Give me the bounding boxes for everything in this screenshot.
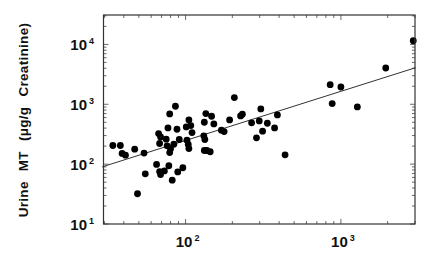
data-point [117,142,124,149]
data-points [109,37,416,197]
tick-label: 103 [331,233,355,250]
data-point [271,125,278,132]
data-point [169,177,176,184]
data-point [163,136,170,143]
data-point [156,140,163,147]
data-point [122,152,129,159]
data-point [282,151,289,158]
data-point [248,119,255,126]
data-point [172,103,179,110]
data-point [201,136,208,143]
data-point [142,170,149,177]
tick-label: 102 [176,233,200,250]
data-point [174,126,181,133]
data-point [207,148,214,155]
data-point [274,112,281,119]
data-point [231,94,238,101]
data-point [239,111,246,118]
data-point [253,134,260,141]
data-point [410,37,417,44]
data-point [141,150,148,157]
data-point [189,129,196,136]
data-point [221,128,228,135]
data-point [329,100,336,107]
data-point [166,149,173,156]
data-point [208,113,215,120]
data-point [153,161,160,168]
data-point [256,118,263,125]
data-point [264,120,271,127]
data-point [338,84,345,91]
data-point [187,122,194,129]
tick-label: 102 [70,156,94,173]
data-point [257,106,264,113]
data-point [170,141,177,148]
data-point [109,142,116,149]
data-point [179,164,186,171]
data-point [210,121,217,128]
data-point [166,111,173,118]
data-point [165,125,172,132]
data-point [327,81,334,88]
tick-label: 103 [70,96,94,113]
scatter-chart: 102103101102103104 [0,0,431,272]
data-point [131,146,138,153]
data-point [354,104,361,111]
data-point [185,145,192,152]
data-point [176,136,183,143]
data-point [259,128,266,135]
data-point [382,65,389,72]
tick-label: 104 [70,36,94,53]
data-point [161,168,168,175]
y-axis-label: Urine MT (μg/g Creatinine) [16,23,31,218]
data-point [165,162,172,169]
data-point [226,117,233,124]
data-point [134,190,141,197]
regression-line [102,68,415,167]
tick-label: 101 [70,216,94,233]
data-point [201,119,208,126]
